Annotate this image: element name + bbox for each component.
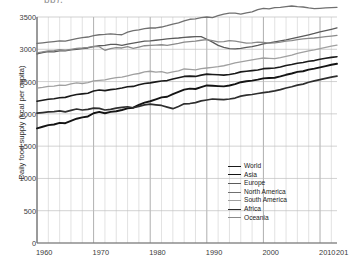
legend-item[interactable]: Europe [228,179,287,188]
chart-container: pp), Daily food supply (kcal per capita)… [0,0,350,270]
legend-item[interactable]: Asia [228,171,287,180]
legend-label: Africa [244,206,261,213]
legend-label: North America [244,189,286,196]
legend-swatch-icon [228,174,241,175]
legend-item[interactable]: Oceania [228,214,287,223]
legend-label: Europe [244,180,265,187]
legend-label: South America [244,197,287,204]
legend-swatch-icon [228,200,241,201]
legend-item[interactable]: World [228,162,287,171]
legend-label: World [244,163,261,170]
chart-plot-area [0,0,350,270]
chart-legend: WorldAsiaEuropeNorth AmericaSouth Americ… [228,162,287,222]
legend-item[interactable]: South America [228,196,287,205]
legend-swatch-icon [228,192,241,193]
legend-swatch-icon [228,166,241,167]
legend-item[interactable]: Africa [228,205,287,214]
legend-label: Oceania [244,215,269,222]
legend-label: Asia [244,172,257,179]
legend-swatch-icon [228,183,241,184]
legend-swatch-icon [228,209,241,210]
legend-swatch-icon [228,217,241,218]
legend-item[interactable]: North America [228,188,287,197]
